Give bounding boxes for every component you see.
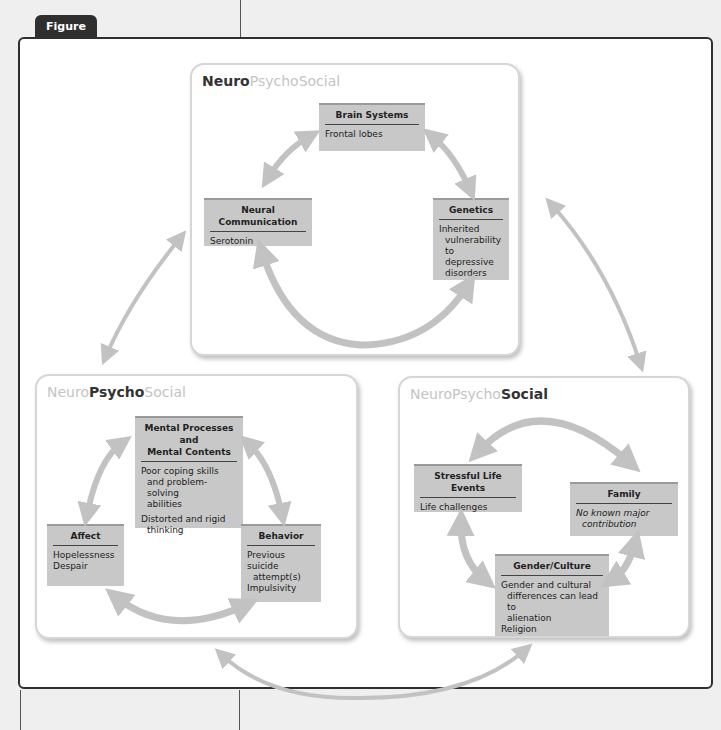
node-text: disorders xyxy=(439,268,503,279)
node-genetics: Genetics Inherited vulnerability to depr… xyxy=(433,198,509,280)
title-psycho-part: Psycho xyxy=(89,384,144,400)
node-title: Mental Processes and Mental Contents xyxy=(141,422,237,462)
title-neuro-part: Neuro xyxy=(202,73,250,89)
node-behavior: Behavior Previous suicide attempt(s) Imp… xyxy=(241,524,321,602)
node-text: Gender and cultural xyxy=(501,580,603,591)
title-psycho-part: Psycho xyxy=(250,73,299,89)
node-title: Family xyxy=(576,488,672,504)
node-text: to depressive xyxy=(439,246,503,268)
node-text: vulnerability xyxy=(439,235,503,246)
title-social-part: Social xyxy=(299,73,341,89)
node-title: Behavior xyxy=(247,530,315,546)
node-text: Previous suicide xyxy=(247,550,315,572)
node-gender-culture: Gender/Culture Gender and cultural diffe… xyxy=(495,554,609,636)
node-title-line: Mental Contents xyxy=(141,446,237,458)
node-text: Distorted and rigid xyxy=(141,514,237,525)
node-text: attempt(s) xyxy=(247,572,315,583)
figure-label-tab: Figure 6.8 xyxy=(35,15,97,39)
node-text: thinking xyxy=(141,525,237,536)
node-brain-systems: Brain Systems Frontal lobes xyxy=(319,103,425,151)
node-text: abilities xyxy=(141,499,237,510)
node-title: Genetics xyxy=(439,204,503,220)
title-psycho-part: Psycho xyxy=(452,386,501,402)
page-rule-bottom xyxy=(20,690,240,730)
node-title: Affect xyxy=(53,530,118,546)
node-title: Gender/Culture xyxy=(501,560,603,576)
node-text: No known major xyxy=(576,508,672,519)
node-text: contribution xyxy=(576,519,672,530)
node-title: Brain Systems xyxy=(325,109,419,125)
node-title: Neural Communication xyxy=(210,204,306,232)
node-text: Impulsivity xyxy=(247,583,315,594)
node-text: Despair xyxy=(53,561,118,572)
node-text: Poor coping skills xyxy=(141,466,237,477)
node-text: and problem-solving xyxy=(141,477,237,499)
node-text: Life challenges xyxy=(420,502,516,513)
node-mental-processes: Mental Processes and Mental Contents Poo… xyxy=(135,416,243,528)
panel-neuro-title: NeuroPsychoSocial xyxy=(202,73,340,89)
title-neuro-part: Neuro xyxy=(47,384,89,400)
node-text: Serotonin xyxy=(210,236,306,247)
title-social-part: Social xyxy=(501,386,548,402)
node-text: Hopelessness xyxy=(53,550,118,561)
node-stressful-life-events: Stressful Life Events Life challenges xyxy=(414,464,522,512)
panel-social-title: NeuroPsychoSocial xyxy=(410,386,548,402)
node-title-line: Mental Processes and xyxy=(141,422,237,446)
node-neural-communication: Neural Communication Serotonin xyxy=(204,198,312,246)
node-text: alienation xyxy=(501,613,603,624)
page-rule-top xyxy=(240,0,241,38)
node-text: Religion xyxy=(501,624,603,635)
panel-psycho-title: NeuroPsychoSocial xyxy=(47,384,186,400)
panel-psycho: NeuroPsychoSocial Mental Processes and M… xyxy=(35,374,358,639)
node-text: differences can lead to xyxy=(501,591,603,613)
title-neuro-part: Neuro xyxy=(410,386,452,402)
node-title: Stressful Life Events xyxy=(420,470,516,498)
panel-social: NeuroPsychoSocial Stressful Life Events … xyxy=(398,376,690,638)
node-family: Family No known major contribution xyxy=(570,482,678,536)
panel-neuro: NeuroPsychoSocial Brain Systems Frontal … xyxy=(190,63,520,356)
node-text: Inherited xyxy=(439,224,503,235)
node-text: Frontal lobes xyxy=(325,129,419,140)
node-affect: Affect Hopelessness Despair xyxy=(47,524,124,586)
title-social-part: Social xyxy=(144,384,186,400)
